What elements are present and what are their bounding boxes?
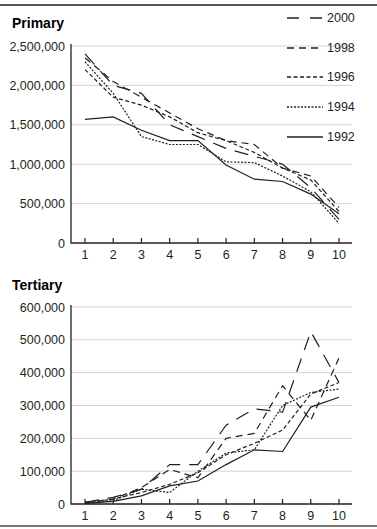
x-tick-label: 2 (110, 509, 117, 523)
y-tick-label: 0 (58, 498, 65, 512)
x-tick-label: 5 (194, 509, 201, 523)
series-line-1994 (85, 62, 339, 224)
y-tick-label: 2,000,000 (9, 79, 65, 93)
y-tick-label: 1,000,000 (9, 158, 65, 172)
x-tick-label: 4 (166, 509, 173, 523)
x-tick-label: 6 (223, 248, 230, 262)
x-tick-label: 3 (138, 248, 145, 262)
y-tick-label: 0 (58, 237, 65, 251)
x-tick-label: 7 (251, 248, 258, 262)
x-tick-label: 6 (223, 509, 230, 523)
y-tick-label: 100,000 (20, 465, 65, 479)
series-line-2000 (85, 332, 339, 503)
x-tick-label: 1 (82, 509, 89, 523)
x-tick-label: 10 (332, 248, 346, 262)
axes (71, 44, 352, 243)
series-line-1998 (85, 58, 339, 208)
legend-label: 2000 (327, 11, 355, 25)
x-tick-label: 4 (166, 248, 173, 262)
series-line-1992 (85, 397, 339, 503)
x-tick-label: 9 (307, 509, 314, 523)
y-tick-label: 500,000 (20, 197, 65, 211)
y-tick-label: 400,000 (20, 366, 65, 380)
x-tick-label: 9 (307, 248, 314, 262)
tertiary-chart: 0100,000200,000300,000400,000500,000600,… (20, 301, 352, 524)
series-line-1996 (85, 383, 339, 504)
x-tick-label: 3 (138, 509, 145, 523)
primary-chart-title: Primary (12, 15, 64, 31)
x-tick-label: 8 (279, 509, 286, 523)
legend-label: 1996 (327, 70, 355, 84)
tertiary-chart-title: Tertiary (12, 277, 63, 293)
legend-label: 1994 (327, 100, 355, 114)
y-tick-label: 1,500,000 (9, 118, 65, 132)
x-tick-label: 2 (110, 248, 117, 262)
y-tick-label: 2,500,000 (9, 40, 65, 54)
series-line-1992 (85, 117, 339, 214)
x-tick-label: 5 (194, 248, 201, 262)
charts-canvas: Primary Tertiary 0500,0001,000,0001,500,… (0, 0, 377, 529)
primary-chart: 0500,0001,000,0001,500,0002,000,0002,500… (9, 40, 352, 263)
x-tick-label: 10 (332, 509, 346, 523)
series-line-1998 (85, 358, 339, 503)
x-tick-label: 1 (82, 248, 89, 262)
y-tick-label: 300,000 (20, 399, 65, 413)
y-tick-label: 200,000 (20, 432, 65, 446)
axes (71, 305, 352, 504)
y-tick-label: 600,000 (20, 301, 65, 315)
legend-label: 1998 (327, 41, 355, 55)
x-tick-label: 7 (251, 509, 258, 523)
legend: 20001998199619941992 (287, 11, 355, 144)
x-tick-label: 8 (279, 248, 286, 262)
y-tick-label: 500,000 (20, 333, 65, 347)
legend-label: 1992 (327, 130, 355, 144)
